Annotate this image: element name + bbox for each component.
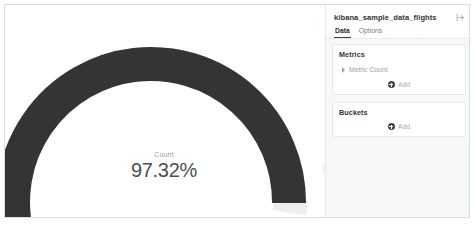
plus-circle-icon [388, 123, 395, 130]
visualization-editor-frame: Count 97.32% kibana_sample_data_flights … [4, 4, 470, 218]
editor-header: kibana_sample_data_flights Data Options [326, 5, 470, 39]
gauge-svg [5, 5, 319, 217]
buckets-section-title: Buckets [339, 108, 459, 117]
buckets-section: Buckets Add [332, 102, 466, 137]
app-root: Count 97.32% kibana_sample_data_flights … [0, 0, 474, 229]
metrics-section: Metrics Metric Count Add [332, 44, 466, 95]
collapse-panel-icon[interactable] [456, 13, 465, 22]
metric-aggregation-label: Metric Count [349, 66, 388, 73]
metrics-section-title: Metrics [339, 50, 459, 59]
editor-title-row: kibana_sample_data_flights [334, 13, 465, 22]
visualization-canvas[interactable]: Count 97.32% [5, 5, 323, 217]
buckets-add-button[interactable]: Add [339, 123, 459, 130]
buckets-add-label: Add [398, 123, 410, 130]
metrics-add-label: Add [398, 81, 410, 88]
plus-circle-icon [388, 81, 395, 88]
data-source-title: kibana_sample_data_flights [334, 13, 437, 22]
editor-body: Metrics Metric Count Add Buckets [326, 39, 470, 217]
metrics-add-button[interactable]: Add [339, 81, 459, 88]
goal-gauge[interactable] [5, 5, 319, 217]
metric-aggregation-row[interactable]: Metric Count [339, 64, 459, 75]
editor-tabs: Data Options [334, 26, 465, 38]
gauge-value-arc [13, 64, 289, 217]
tab-options[interactable]: Options [358, 26, 383, 38]
chevron-right-icon[interactable] [342, 67, 345, 73]
tab-data[interactable]: Data [334, 26, 351, 38]
editor-panel: kibana_sample_data_flights Data Options … [325, 5, 470, 217]
